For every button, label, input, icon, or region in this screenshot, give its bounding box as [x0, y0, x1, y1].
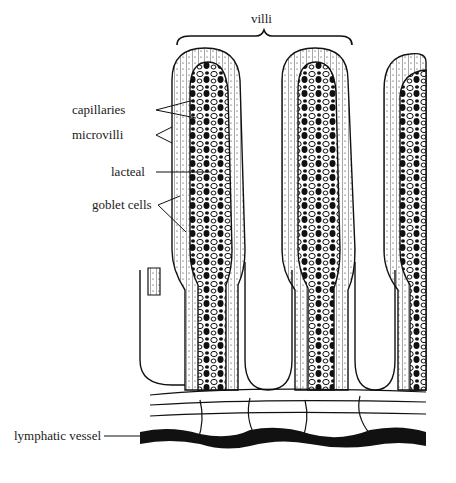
- lymphatic-vessel-band: [140, 427, 426, 448]
- crypt-left: [140, 270, 185, 385]
- villi-illustration: [0, 0, 456, 483]
- villus-3-partial: [384, 54, 426, 390]
- label-microvilli: microvilli: [72, 128, 123, 142]
- villus-1: [172, 48, 245, 390]
- villi-brace: [177, 30, 352, 45]
- villus-2: [282, 48, 355, 390]
- label-villi: villi: [251, 12, 272, 26]
- label-capillaries: capillaries: [72, 103, 125, 117]
- crypt-mid: [245, 262, 292, 390]
- label-goblet-cells: goblet cells: [92, 198, 152, 212]
- crypt-right: [355, 262, 395, 390]
- label-lymphatic-vessel: lymphatic vessel: [14, 429, 101, 443]
- label-lacteal: lacteal: [111, 165, 145, 179]
